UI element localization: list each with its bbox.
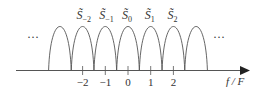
lobe-label: S̃−1 bbox=[99, 8, 114, 24]
lobe-label: S̃0 bbox=[122, 8, 132, 24]
lobe-label: S̃1 bbox=[145, 8, 155, 24]
axis-ticks: −2−1012 bbox=[77, 66, 176, 88]
spectral-lobe bbox=[49, 27, 72, 71]
spectral-lobes bbox=[49, 27, 208, 71]
axis-label: f / F bbox=[226, 75, 245, 87]
tick-label: 2 bbox=[171, 76, 177, 88]
lobe-label: S̃−2 bbox=[77, 8, 92, 24]
tick-label: 0 bbox=[125, 76, 131, 88]
lobe-label: S̃2 bbox=[167, 8, 177, 24]
lobe-labels: S̃−2S̃−1S̃0S̃1S̃2 bbox=[77, 8, 178, 24]
spectral-lobe bbox=[117, 27, 140, 71]
spectral-lobe bbox=[71, 27, 94, 71]
tick-label: −2 bbox=[77, 76, 89, 88]
ellipsis-right: ··· bbox=[213, 30, 225, 44]
spectral-lobe bbox=[185, 27, 208, 71]
axis-arrow-icon bbox=[240, 66, 250, 75]
tick-label: −1 bbox=[99, 76, 111, 88]
spectral-lobe bbox=[162, 27, 185, 71]
spectral-lobe bbox=[94, 27, 117, 71]
spectrum-diagram: −2−1012 S̃−2S̃−1S̃0S̃1S̃2 ··· ··· f / F bbox=[0, 0, 261, 94]
spectral-lobe bbox=[139, 27, 162, 71]
tick-label: 1 bbox=[148, 76, 154, 88]
ellipsis-left: ··· bbox=[27, 30, 39, 44]
spectrum-svg: −2−1012 S̃−2S̃−1S̃0S̃1S̃2 ··· ··· f / F bbox=[0, 0, 261, 94]
